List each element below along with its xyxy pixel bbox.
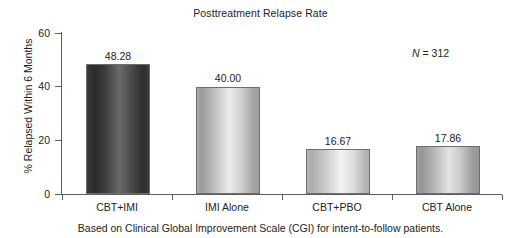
y-tick-20 — [55, 140, 61, 141]
y-tick-40 — [55, 86, 61, 87]
bar-imi-alone — [196, 87, 260, 194]
x-tick-label-imi-alone: IMI Alone — [172, 201, 282, 213]
chart-title: Posttreatment Relapse Rate — [0, 7, 521, 19]
x-tick-3 — [392, 195, 393, 200]
bar-value-cbt-pbo: 16.67 — [283, 135, 393, 147]
x-tick-1 — [172, 195, 173, 200]
x-tick-2 — [282, 195, 283, 200]
y-tick-60 — [55, 33, 61, 34]
sample-size-symbol: N — [412, 47, 420, 59]
chart-footnote: Based on Clinical Global Improvement Sca… — [0, 222, 521, 234]
x-tick-0 — [62, 195, 63, 200]
bar-value-imi-alone: 40.00 — [173, 72, 283, 84]
bar-value-cbt-imi: 48.28 — [63, 50, 173, 62]
x-tick-label-cbt-imi: CBT+IMI — [62, 201, 172, 213]
y-tick-label-0: 0 — [8, 189, 50, 200]
bar-cbt-alone — [416, 146, 480, 194]
bar-chart-figure: Posttreatment Relapse Rate 60 40 20 0 % … — [0, 0, 521, 238]
x-tick-label-cbt-alone: CBT Alone — [392, 201, 502, 213]
y-axis-title: % Relapsed Within 6 Months — [22, 26, 34, 186]
x-tick-4 — [502, 195, 503, 200]
x-tick-label-cbt-pbo: CBT+PBO — [282, 201, 392, 213]
sample-size-value: = 312 — [420, 47, 450, 59]
bar-cbt-pbo — [306, 149, 370, 194]
bar-cbt-imi — [86, 64, 150, 194]
sample-size-annotation: N = 312 — [412, 47, 449, 59]
bar-value-cbt-alone: 17.86 — [393, 132, 503, 144]
